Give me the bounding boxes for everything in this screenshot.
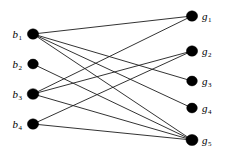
node-b1 — [27, 29, 38, 39]
node-g3 — [187, 76, 198, 86]
node-b4 — [27, 119, 38, 129]
edge-b1-g1 — [33, 16, 192, 34]
edge-b2-g5 — [33, 64, 192, 140]
edge-b3-g1 — [33, 16, 192, 94]
node-label-g2: g2 — [202, 45, 212, 60]
node-b2 — [28, 59, 39, 69]
node-label-g4: g4 — [202, 102, 212, 117]
nodes-group — [27, 11, 198, 146]
edge-b1-g4 — [33, 34, 192, 108]
node-b3 — [27, 89, 39, 100]
graph-canvas: b1b2b3b4g1g2g3g4g5 — [0, 0, 225, 154]
node-g2 — [186, 46, 197, 56]
node-label-g3: g3 — [202, 75, 212, 90]
node-label-b1: b1 — [12, 28, 22, 43]
labels-group: b1b2b3b4g1g2g3g4g5 — [12, 10, 212, 149]
node-label-b3: b3 — [12, 88, 22, 103]
edge-b3-g5 — [33, 94, 192, 140]
edge-b4-g5 — [33, 124, 192, 140]
bipartite-graph-figure: b1b2b3b4g1g2g3g4g5 — [0, 0, 225, 154]
node-g5 — [186, 134, 198, 145]
node-g1 — [186, 11, 197, 21]
edge-b1-g5 — [33, 34, 192, 140]
edges-group — [33, 16, 192, 140]
node-g4 — [187, 103, 198, 113]
node-label-g1: g1 — [202, 10, 212, 25]
node-label-g5: g5 — [202, 134, 212, 149]
node-label-b4: b4 — [12, 118, 22, 133]
node-label-b2: b2 — [12, 58, 22, 73]
